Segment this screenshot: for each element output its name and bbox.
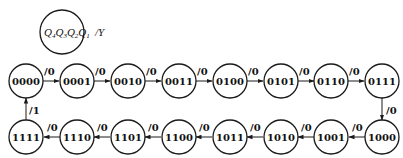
state-0101: 0101 — [264, 64, 298, 98]
state-0100: 0100 — [213, 64, 247, 98]
edge-label: /0 — [97, 122, 108, 133]
state-1111: 1111 — [9, 120, 43, 154]
svg-text:1101: 1101 — [114, 132, 142, 143]
svg-text:0100: 0100 — [216, 76, 244, 87]
svg-text:0101: 0101 — [267, 76, 295, 87]
legend-state-format: Q4Q3Q2Q1 — [44, 26, 90, 40]
svg-text:0010: 0010 — [114, 76, 142, 87]
state-1011: 1011 — [213, 120, 247, 154]
state-0110: 0110 — [314, 64, 348, 98]
edge-label: /0 — [44, 66, 55, 77]
edge-label: /0 — [148, 122, 159, 133]
edge-label: /0 — [386, 105, 397, 116]
svg-text:1011: 1011 — [216, 132, 244, 143]
states: 0000 0001 0010 0011 0100 0101 0110 0111 … — [9, 64, 399, 154]
edge-label: /0 — [349, 66, 360, 77]
state-1110: 1110 — [60, 120, 94, 154]
state-0001: 0001 — [60, 64, 94, 98]
state-0010: 0010 — [111, 64, 145, 98]
legend: Q4Q3Q2Q1 /Y — [40, 10, 106, 54]
edge-label: /1 — [29, 105, 40, 116]
svg-text:0111: 0111 — [368, 76, 396, 87]
state-1000: 1000 — [365, 120, 399, 154]
svg-text:1110: 1110 — [63, 132, 91, 143]
edge-label: /0 — [197, 66, 208, 77]
edge-label: /0 — [299, 66, 310, 77]
edge-label: /0 — [250, 122, 261, 133]
state-0000: 0000 — [9, 64, 43, 98]
legend-output-label: /Y — [94, 26, 106, 38]
state-1001: 1001 — [314, 120, 348, 154]
svg-text:0011: 0011 — [165, 76, 193, 87]
edge-label: /0 — [47, 122, 58, 133]
state-diagram: Q4Q3Q2Q1 /Y /0 /0 /0 /0 /0 /0 /0 /0 /0 /… — [0, 0, 403, 158]
svg-text:1001: 1001 — [317, 132, 345, 143]
state-1100: 1100 — [162, 120, 196, 154]
svg-text:1000: 1000 — [368, 132, 396, 143]
state-0111: 0111 — [365, 64, 399, 98]
edge-label: /0 — [352, 122, 363, 133]
svg-text:1100: 1100 — [165, 132, 193, 143]
edge-label: /0 — [95, 66, 106, 77]
svg-text:0000: 0000 — [12, 76, 40, 87]
edge-label: /0 — [146, 66, 157, 77]
svg-text:1010: 1010 — [267, 132, 295, 143]
svg-text:0001: 0001 — [63, 76, 91, 87]
state-0011: 0011 — [162, 64, 196, 98]
svg-text:0110: 0110 — [317, 76, 345, 87]
edge-label: /0 — [199, 122, 210, 133]
state-1101: 1101 — [111, 120, 145, 154]
state-1010: 1010 — [264, 120, 298, 154]
edge-label: /0 — [301, 122, 312, 133]
svg-text:1111: 1111 — [12, 132, 40, 143]
edge-label: /0 — [248, 66, 259, 77]
